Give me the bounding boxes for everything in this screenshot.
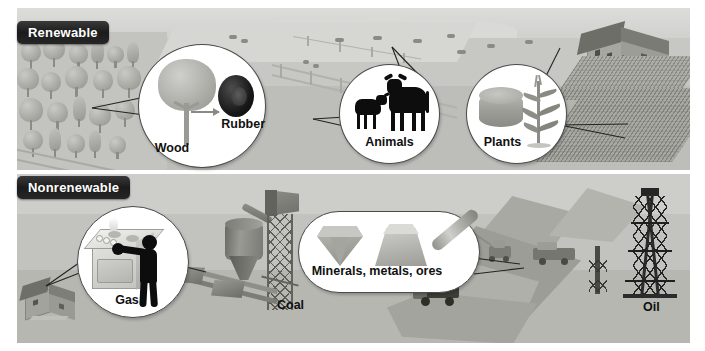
flame-icon [109, 217, 118, 231]
banner-label-renewable: Renewable [28, 25, 98, 40]
callout-label-wood: Wood [117, 141, 227, 155]
livestock-speck [335, 38, 344, 42]
coal-cart [211, 280, 245, 298]
stove-oven-door [97, 259, 133, 283]
calf-leg [364, 113, 367, 129]
callout-label-gas: Gas [72, 293, 182, 307]
banner-nonrenewable: Nonrenewable [17, 176, 130, 199]
callout-gas[interactable]: Gas [77, 206, 189, 318]
livestock-speck [525, 40, 533, 44]
livestock-speck [229, 35, 237, 39]
callout-wood[interactable]: Rubber Wood [138, 44, 266, 168]
callout-label-animals: Animals [340, 135, 439, 149]
scene-label-coal: Coal [277, 298, 304, 312]
cow-leg [400, 111, 404, 131]
callout-animals[interactable]: Animals [339, 64, 440, 164]
calf-leg [373, 113, 376, 129]
person-icon [142, 235, 157, 250]
ingot-top [383, 224, 419, 234]
stove-burner [126, 235, 139, 242]
stove-burner [108, 231, 121, 238]
haul-truck [533, 240, 579, 266]
cow-leg [421, 111, 425, 131]
oil-derrick [619, 188, 681, 298]
tire-inner [231, 87, 247, 106]
cow-leg [391, 111, 395, 131]
callout-label-rubber: Rubber [155, 117, 265, 131]
banner-label-nonrenewable: Nonrenewable [28, 180, 119, 195]
resources-infographic: Rubber Wood Animals [0, 0, 705, 351]
scene-label-oil: Oil [643, 300, 660, 314]
calf-leg [357, 113, 360, 129]
livestock-speck [373, 36, 382, 40]
livestock-speck [313, 64, 319, 68]
stove-knob[interactable] [103, 237, 110, 244]
stove-knob[interactable] [96, 235, 103, 242]
gem-facet [317, 226, 363, 237]
fence-far [293, 30, 423, 60]
banner-renewable: Renewable [17, 21, 109, 44]
livestock-speck [487, 44, 495, 48]
callout-label-plants: Plants [453, 135, 552, 149]
arrow-right-icon [191, 111, 219, 113]
callout-plants[interactable]: Plants [466, 64, 567, 164]
livestock-speck [241, 39, 248, 43]
callout-label-minerals: Minerals, metals, ores [287, 264, 467, 278]
cow-leg [412, 111, 416, 131]
wellhead [589, 246, 607, 294]
hay-bale-top [479, 87, 523, 104]
livestock-speck [413, 39, 422, 43]
metal-pipe-icon [430, 207, 481, 252]
cow-head [387, 79, 402, 94]
livestock-speck [457, 50, 466, 54]
livestock-speck [447, 34, 455, 38]
livestock-speck [303, 60, 309, 64]
cow-tail [426, 91, 429, 113]
person-hand [112, 243, 124, 255]
callout-minerals[interactable]: Minerals, metals, ores [298, 211, 480, 293]
